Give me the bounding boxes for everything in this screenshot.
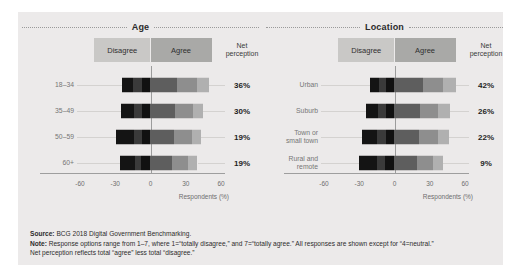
category-label: Town orsmall town [266,129,318,144]
leader-line [77,111,121,112]
chart-row: Rural andremote9% [266,150,503,176]
category-label: 50–59 [22,133,74,141]
category-label: Suburb [266,107,318,115]
footnote-source: Source: BCG 2018 Digital Government Benc… [30,229,493,238]
dotted-rule-left [266,27,360,28]
note-text: Response options range from 1–7, where 1… [47,240,434,247]
bar-segment-disagree [359,156,377,171]
x-tick-label: 60 [461,180,468,187]
bar-segment-agree [438,104,450,119]
net-perception-value: 30% [225,107,259,116]
bar-segment-agree [150,130,174,145]
dotted-rule-right [409,27,503,28]
legend-net-line1: Net [481,42,492,51]
bar-segment-disagree [362,130,377,145]
net-perception-value: 9% [469,159,503,168]
leader-line [321,137,362,138]
x-tick-label: -60 [319,180,328,187]
legend-net-line2: perception [470,50,503,59]
bar-segment-disagree [386,104,394,119]
bar-segment-agree [197,78,209,93]
bar-segment-disagree [366,104,378,119]
bar-segment-agree [172,156,188,171]
stacked-bar[interactable] [120,156,198,171]
bar-segment-agree [417,156,433,171]
panel-location: Location Disagree Agree Net perception R… [266,12,503,212]
bar-segment-agree [150,104,175,119]
bar-segment-disagree [386,78,394,93]
bar-segment-disagree [121,104,134,119]
stacked-bar[interactable] [362,130,449,145]
bar-segment-disagree [370,78,379,93]
category-label: 18–34 [22,81,74,89]
bar-segment-disagree [377,130,386,145]
leader-line [443,163,469,164]
stacked-bar[interactable] [366,104,449,119]
leader-line [209,85,225,86]
net-perception-value: 36% [225,81,259,90]
legend-net-perception: Net perception [469,38,503,62]
bar-segment-agree [394,156,416,171]
panel-title-age: Age [22,20,259,34]
source-text: BCG 2018 Digital Government Benchmarking… [55,230,192,237]
bar-segment-agree [177,78,197,93]
bar-segment-agree [394,130,419,145]
bar-segment-agree [174,130,192,145]
footnote-note: Note: Response options range from 1–7, w… [30,239,493,248]
bar-segment-disagree [134,130,142,145]
plot-age: Respondents (%) -60-300306018–3436%35–49… [22,66,259,188]
leader-line [456,85,469,86]
bar-segment-agree [150,78,177,93]
bar-segment-agree [420,104,438,119]
bar-segment-disagree [142,78,150,93]
x-tick-label: -30 [355,180,364,187]
stacked-bar[interactable] [122,78,209,93]
x-tick-label: -30 [111,180,120,187]
legend-age: Disagree Agree Net perception [22,38,259,62]
bar-segment-disagree [385,156,394,171]
bar-segment-disagree [378,104,386,119]
chart-row: 60+19% [22,150,259,176]
panels-container: Age Disagree Agree Net perception Respon… [18,12,503,212]
dotted-rule-left [22,27,127,28]
category-label: 60+ [22,159,74,167]
legend-agree: Agree [151,38,212,62]
exhibit-card: Age Disagree Agree Net perception Respon… [18,12,503,265]
stacked-bar[interactable] [359,156,442,171]
bar-segment-disagree [134,104,142,119]
legend-disagree: Disagree [338,38,394,62]
x-tick-label: 0 [393,180,397,187]
stacked-bar[interactable] [116,130,201,145]
chart-row: 50–5919% [22,124,259,150]
x-tick-label: -60 [75,180,84,187]
bar-segment-disagree [377,156,385,171]
leader-line [203,111,225,112]
x-tick-label: 30 [426,180,433,187]
footnote-net-perception: Net perception reflects total “agree” le… [30,248,493,257]
panel-title-text: Location [365,22,404,32]
category-label: Rural andremote [266,155,318,170]
leader-line [77,163,120,164]
x-tick-label: 60 [217,180,224,187]
stacked-bar[interactable] [121,104,203,119]
net-perception-value: 19% [225,133,259,142]
panel-age: Age Disagree Agree Net perception Respon… [22,12,259,212]
bar-segment-agree [438,130,449,145]
leader-line [450,111,469,112]
bar-segment-disagree [379,78,386,93]
bar-segment-disagree [141,156,150,171]
stacked-bar[interactable] [370,78,456,93]
bar-segment-agree [433,156,442,171]
x-axis-title: Respondents (%) [179,193,229,200]
leader-line [77,137,116,138]
leader-line [321,85,370,86]
x-axis-title: Respondents (%) [423,193,473,200]
bar-segment-disagree [386,130,394,145]
chart-row: Suburb26% [266,98,503,124]
legend-net-line2: perception [226,50,259,59]
leader-line [449,137,469,138]
bar-segment-agree [443,78,456,93]
leader-line [198,163,226,164]
bar-segment-disagree [142,104,150,119]
bar-segment-agree [188,156,197,171]
